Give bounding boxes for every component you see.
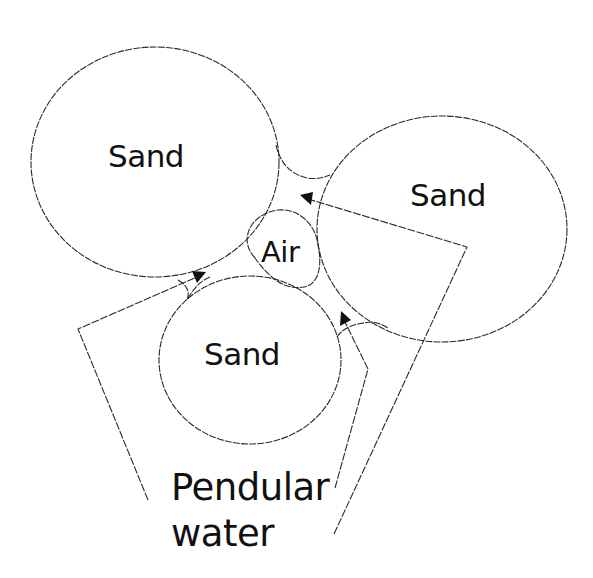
sand-grain-top-left: Sand bbox=[31, 47, 279, 277]
pendular-water-diagram: Sand Sand Sand Air Pendular bbox=[0, 0, 593, 578]
caption-line-1: Pendular bbox=[171, 466, 331, 509]
sand-grain-right-outline bbox=[317, 116, 567, 342]
sand-grain-right: Sand bbox=[317, 116, 567, 342]
meniscus-right bbox=[337, 322, 388, 337]
meniscus-top-upper bbox=[276, 145, 330, 179]
sand-grain-right-label: Sand bbox=[410, 177, 486, 213]
pointer-line-right bbox=[308, 199, 467, 534]
caption: Pendular water bbox=[171, 466, 331, 555]
air-pocket-label: Air bbox=[261, 235, 300, 269]
arrowhead-left-icon bbox=[192, 271, 206, 283]
caption-line-2: water bbox=[171, 512, 275, 555]
arrowhead-right-icon bbox=[300, 192, 313, 205]
sand-grain-top-left-label: Sand bbox=[108, 138, 184, 174]
sand-grain-bottom: Sand bbox=[159, 276, 341, 444]
sand-grain-bottom-label: Sand bbox=[204, 336, 280, 372]
